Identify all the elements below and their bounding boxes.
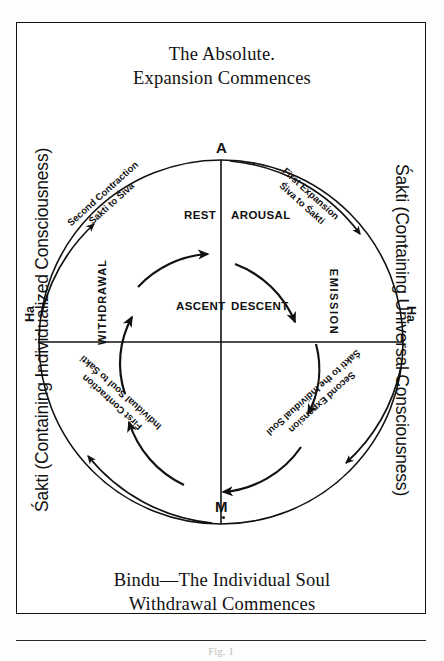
bottom-caption: Bindu—The Individual Soul Withdrawal Com… (40, 568, 404, 616)
quadrant-word-arousal: AROUSAL (231, 209, 291, 221)
axis-word-emission: EMISSION (328, 269, 340, 336)
rim-arrow-first-contraction (88, 456, 212, 523)
figure-number-caption: Fig. 1 (16, 645, 426, 659)
quadrant-word-ascent: ASCENT (176, 300, 226, 312)
vertex-label-m: M (215, 498, 228, 515)
rim-arrow-second-contraction (41, 224, 94, 316)
vertex-label-a: A (216, 139, 227, 156)
bottom-caption-line-2: Withdrawal Commences (40, 592, 404, 616)
cycle-diagram (16, 22, 426, 614)
inner-arrow-withdrawal (120, 317, 132, 394)
bottom-caption-line-1: Bindu—The Individual Soul (40, 568, 404, 592)
quadrant-word-descent: DESCENT (231, 300, 289, 312)
inner-arrow-rest (138, 254, 208, 287)
axis-word-withdrawal: WITHDRAWAL (96, 259, 108, 345)
inner-arrow-arousal (235, 264, 295, 322)
figure-page: The Absolute. Expansion Commences Śakti … (0, 0, 444, 661)
inner-arrow-descent (223, 447, 301, 492)
page-rule (16, 640, 426, 641)
vertex-m-underdot (222, 516, 225, 519)
rim-arrow-second-expansion (346, 367, 401, 463)
quadrant-word-rest: REST (184, 209, 216, 221)
